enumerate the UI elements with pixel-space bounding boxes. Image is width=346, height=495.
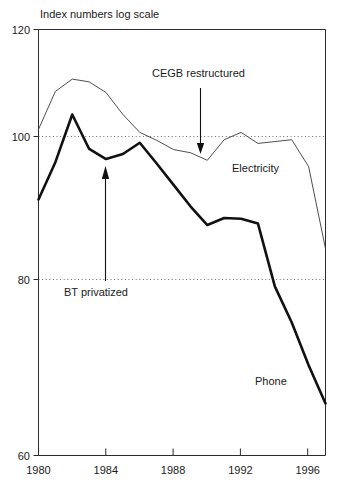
series-line-electricity — [39, 79, 326, 249]
y-tick-label-60: 60 — [18, 450, 30, 462]
x-tick-label-1996: 1996 — [295, 464, 319, 476]
x-axis-ticks: 1980 1984 1988 1992 1996 — [26, 449, 320, 477]
y-tick-label-100: 100 — [12, 131, 30, 143]
annotation-label-cegb: CEGB restructured — [152, 67, 245, 79]
plot-border — [39, 30, 326, 456]
y-axis-caption: Index numbers log scale — [40, 8, 159, 20]
y-tick-label-120: 120 — [12, 24, 30, 36]
x-tick-label-1980: 1980 — [26, 464, 50, 476]
line-chart-figure: Index numbers log scale 120 100 80 60 19… — [0, 0, 346, 495]
data-series-group — [39, 79, 326, 403]
y-tick-label-80: 80 — [18, 274, 30, 286]
x-tick-label-1988: 1988 — [161, 464, 185, 476]
series-line-phone — [39, 115, 326, 404]
chart-container: Index numbers log scale 120 100 80 60 19… — [0, 0, 346, 495]
series-label-electricity: Electricity — [232, 162, 280, 174]
x-tick-label-1984: 1984 — [94, 464, 118, 476]
annotation-arrowhead-bt — [102, 166, 109, 179]
x-tick-label-1992: 1992 — [228, 464, 252, 476]
plot-frame — [39, 30, 326, 456]
annotation-arrowhead-cegb — [197, 143, 204, 154]
annotation-cegb-restructured: CEGB restructured — [152, 67, 245, 154]
annotation-label-bt: BT privatized — [64, 286, 128, 298]
y-axis-ticks: 120 100 80 60 — [12, 24, 39, 462]
series-label-phone: Phone — [255, 375, 287, 387]
gridlines — [39, 137, 326, 280]
annotation-bt-privatized: BT privatized — [64, 166, 128, 298]
